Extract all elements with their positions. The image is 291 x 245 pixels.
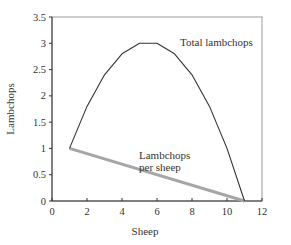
y-tick-label: 1.5 xyxy=(33,117,46,128)
x-tick-label: 4 xyxy=(119,206,125,217)
y-tick-label: 1 xyxy=(41,143,46,154)
x-tick-label: 2 xyxy=(84,206,89,217)
x-tick-label: 0 xyxy=(49,206,54,217)
y-tick-label: 2 xyxy=(41,90,46,101)
y-tick-label: 3 xyxy=(41,38,46,49)
per-sheep-annotation-line2: per sheep xyxy=(139,161,181,173)
x-tick-label: 8 xyxy=(189,206,194,217)
x-tick-label: 6 xyxy=(154,206,159,217)
y-tick-label: 0.5 xyxy=(33,169,46,180)
per-sheep-annotation-line1: Lambchops xyxy=(139,149,190,161)
y-tick-label: 2.5 xyxy=(33,64,46,75)
y-tick-label: 3.5 xyxy=(33,12,46,23)
y-axis-label: Lambchops xyxy=(4,83,16,134)
y-tick-label: 0 xyxy=(41,196,46,207)
x-tick-label: 10 xyxy=(222,206,233,217)
total-lambchops-annotation: Total lambchops xyxy=(180,36,253,48)
x-axis-label: Sheep xyxy=(132,225,159,237)
x-tick-label: 12 xyxy=(257,206,268,217)
series-layer xyxy=(70,43,245,201)
total-lambchops-line xyxy=(70,43,245,201)
line-chart: 02468101200.511.522.533.5 Sheep Lambchop… xyxy=(0,0,291,245)
